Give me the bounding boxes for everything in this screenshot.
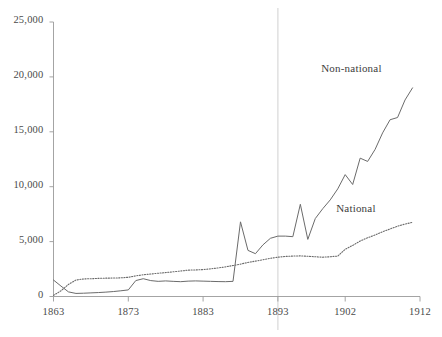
x-axis-tick-label: 1883 [173, 306, 233, 317]
chart-container: 05,00010,00015,00020,00025,0001863187318… [0, 0, 442, 337]
y-axis-tick-label: 0 [0, 289, 44, 300]
y-axis-tick-label: 20,000 [0, 69, 44, 80]
x-axis-tick-label: 1893 [248, 306, 308, 317]
series-line-non-national [54, 88, 413, 294]
y-axis-tick-label: 10,000 [0, 179, 44, 190]
line-chart-canvas [0, 0, 442, 337]
y-axis-tick-label: 5,000 [0, 234, 44, 245]
y-axis-tick-label: 15,000 [0, 124, 44, 135]
series-paths [54, 88, 413, 296]
x-axis-tick-label: 1873 [98, 306, 158, 317]
x-axis-tick-label: 1863 [24, 306, 84, 317]
x-axis-tick-label: 1902 [315, 306, 375, 317]
series-annotation-label: Non-national [321, 62, 381, 74]
y-axis-tick-label: 25,000 [0, 14, 44, 25]
series-line-national [54, 222, 413, 295]
series-annotation-label: National [336, 202, 375, 214]
x-axis-tick-label: 1912 [390, 306, 442, 317]
